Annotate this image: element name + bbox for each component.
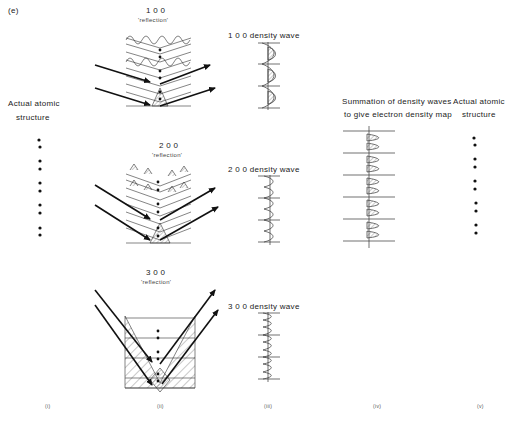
reflection-300-rays (95, 290, 218, 385)
reflection-200-atoms (157, 181, 160, 238)
density-wave-200 (258, 175, 280, 245)
atomic-structure-left (37, 138, 41, 236)
density-wave-100 (258, 42, 280, 110)
density-wave-300 (258, 312, 280, 382)
reflection-100-atoms (159, 49, 162, 101)
diagram-canvas (0, 0, 524, 422)
reflection-100-diagram (126, 36, 191, 106)
atomic-structure-right (472, 136, 477, 234)
electron-density-map (343, 126, 395, 248)
reflection-300-atoms (157, 330, 160, 383)
